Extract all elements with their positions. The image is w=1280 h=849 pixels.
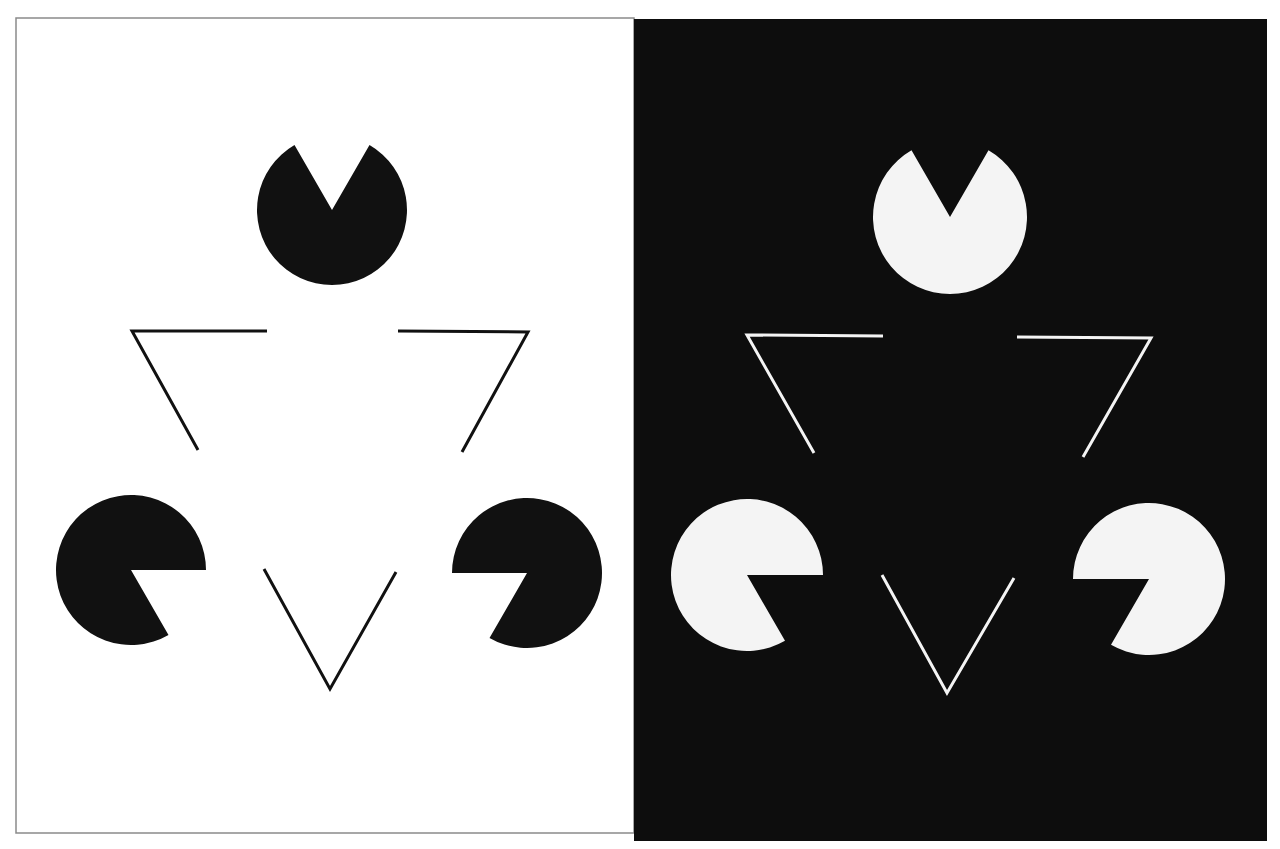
- panel-background: [16, 18, 634, 833]
- panel-background: [634, 19, 1267, 841]
- kanizsa-figure: [0, 0, 1280, 849]
- left-panel-positive: [16, 18, 634, 833]
- right-panel-negative: [634, 19, 1267, 841]
